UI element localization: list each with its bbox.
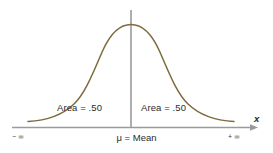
mean-axis-label: μ = Mean (0, 132, 273, 143)
area-label-left: Area = .50 (57, 102, 102, 113)
x-axis-arrowhead (250, 124, 258, 131)
area-label-right: Area = .50 (141, 102, 186, 113)
normal-distribution-figure: Area = .50 Area = .50 − ∞ + ∞ μ = Mean x (0, 0, 273, 153)
distribution-plot-svg (0, 0, 273, 153)
x-axis-label: x (254, 113, 259, 124)
